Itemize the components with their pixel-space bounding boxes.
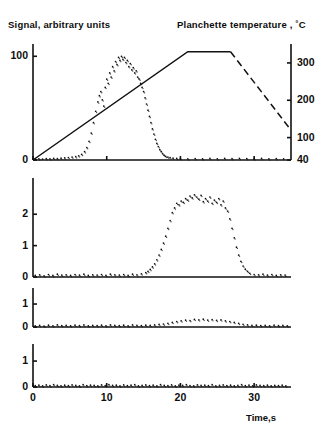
x-tick-label-20: 20 bbox=[174, 391, 186, 403]
temperature-ramp-dashed bbox=[231, 52, 291, 130]
x-tick-label-30: 30 bbox=[248, 391, 260, 403]
x-axis-title: Time,s bbox=[246, 412, 276, 423]
panel2-tick-label-0: 0 bbox=[22, 270, 28, 282]
panel2-scatter bbox=[34, 194, 286, 278]
panel1-left-tick-label-0: 0 bbox=[22, 153, 28, 165]
panel2-tick-label-2: 2 bbox=[22, 207, 28, 219]
plot-area bbox=[0, 0, 331, 435]
panel3-tick-label-1: 1 bbox=[22, 297, 28, 309]
panel1-left-tick-label-100: 100 bbox=[10, 49, 28, 61]
figure-canvas: Signal, arbitrary units Planchette tempe… bbox=[0, 0, 331, 435]
x-tick-label-0: 0 bbox=[27, 391, 39, 403]
panel3-tick-label-0: 0 bbox=[22, 320, 28, 332]
panel4-tick-label-1: 1 bbox=[22, 354, 28, 366]
panel1-right-tick-label-300: 300 bbox=[297, 56, 315, 68]
panel2-tick-label-1: 1 bbox=[22, 239, 28, 251]
panel1-right-tick-label-100: 100 bbox=[297, 131, 315, 143]
panel1-right-tick-label-40: 40 bbox=[297, 153, 309, 165]
temperature-ramp-solid bbox=[33, 52, 231, 160]
panel1-right-tick-label-200: 200 bbox=[297, 93, 315, 105]
x-tick-label-10: 10 bbox=[101, 391, 113, 403]
